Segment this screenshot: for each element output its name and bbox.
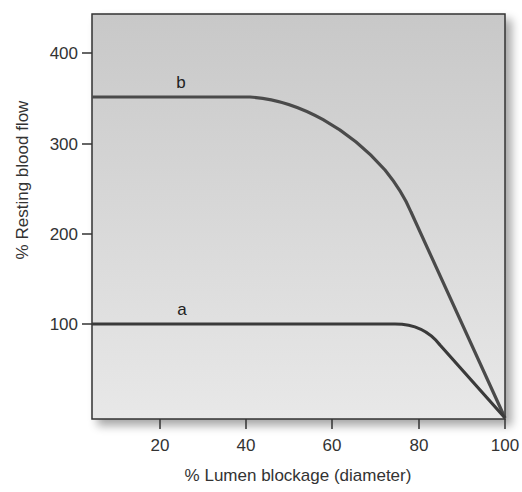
y-tick-label: 100 [50,315,78,334]
y-tick-label: 400 [50,44,78,63]
plot-area [92,14,505,419]
y-tick-label: 200 [50,225,78,244]
y-axis: 400 300 200 100 [50,44,92,334]
curve-a-label: a [177,300,187,319]
curve-b-label: b [176,73,185,92]
x-tick-label: 60 [323,436,342,455]
y-axis-title: % Resting blood flow [13,100,32,259]
x-tick-label: 100 [491,436,519,455]
x-axis: 20 40 60 80 100 [151,419,520,455]
x-tick-label: 80 [410,436,429,455]
blood-flow-chart: 400 300 200 100 20 40 60 80 100 % Lumen … [0,0,522,492]
x-axis-title: % Lumen blockage (diameter) [185,466,412,485]
x-tick-label: 40 [237,436,256,455]
x-tick-label: 20 [151,436,170,455]
y-tick-label: 300 [50,135,78,154]
